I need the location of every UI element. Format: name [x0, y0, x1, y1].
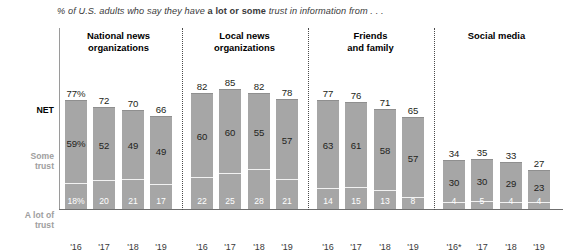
bar-body — [276, 99, 298, 209]
stacked-bar[interactable]: 492170 — [122, 111, 144, 209]
net-value: 77 — [317, 88, 339, 99]
row-label-some-line2: trust — [0, 162, 54, 172]
net-value: 77% — [65, 88, 87, 99]
segment-divider — [191, 177, 213, 178]
stacked-bar[interactable]: 522072 — [93, 108, 115, 209]
group-divider — [182, 28, 183, 210]
some-trust-value: 60 — [191, 131, 213, 142]
group-header-2: Local newsorganizations — [188, 30, 301, 54]
stacked-bar[interactable]: 602585 — [219, 90, 241, 209]
some-trust-value: 61 — [345, 140, 367, 151]
some-trust-value: 58 — [374, 145, 396, 156]
some-trust-value: 59% — [65, 138, 87, 149]
a-lot-of-trust-value: 13 — [374, 196, 396, 206]
segment-divider — [345, 187, 367, 188]
a-lot-of-trust-value: 18% — [65, 196, 87, 206]
some-trust-value: 30 — [443, 177, 465, 188]
net-value: 76 — [345, 90, 367, 101]
net-value: 85 — [219, 77, 241, 88]
subtitle-emphasis: a lot or some — [208, 6, 266, 16]
segment-divider — [248, 169, 270, 170]
a-lot-of-trust-value: 25 — [219, 196, 241, 206]
a-lot-of-trust-value: 20 — [93, 196, 115, 206]
stacked-bar[interactable]: 30535 — [471, 160, 493, 209]
stacked-bar[interactable]: 602282 — [191, 94, 213, 209]
group-header-line1: Social media — [440, 30, 553, 42]
bar-body — [122, 110, 144, 209]
net-value: 70 — [122, 98, 144, 109]
subtitle-post: trust in information from . . . — [266, 6, 384, 16]
net-value: 33 — [500, 150, 522, 161]
a-lot-of-trust-value: 28 — [248, 196, 270, 206]
a-lot-of-trust-value: 21 — [122, 196, 144, 206]
group-header-line2: organizations — [62, 42, 175, 54]
x-tick-label: '19 — [394, 242, 432, 252]
net-value: 78 — [276, 87, 298, 98]
row-label-alot-line2: trust — [0, 221, 54, 231]
row-label-some-trust: Some trust — [0, 152, 54, 171]
segment-divider — [122, 179, 144, 180]
bar-body — [191, 93, 213, 209]
stacked-bar[interactable]: 611576 — [345, 103, 367, 209]
some-trust-value: 30 — [471, 176, 493, 187]
bar-body — [374, 109, 396, 209]
stacked-bar[interactable]: 552882 — [248, 94, 270, 209]
net-value: 71 — [374, 97, 396, 108]
net-value: 82 — [191, 81, 213, 92]
some-trust-value: 57 — [402, 153, 424, 164]
some-trust-value: 29 — [500, 178, 522, 189]
group-divider — [308, 28, 309, 210]
some-trust-value: 23 — [528, 182, 550, 193]
some-trust-value: 49 — [122, 140, 144, 151]
stacked-bar[interactable]: 631477 — [317, 101, 339, 209]
bar-body — [150, 116, 172, 209]
some-trust-value: 52 — [93, 140, 115, 151]
stacked-bar[interactable]: 29433 — [500, 163, 522, 209]
net-value: 34 — [443, 148, 465, 159]
net-value: 35 — [471, 147, 493, 158]
some-trust-value: 57 — [276, 135, 298, 146]
segment-divider — [276, 179, 298, 180]
a-lot-of-trust-value: 17 — [150, 196, 172, 206]
some-trust-value: 55 — [248, 127, 270, 138]
net-value: 72 — [93, 95, 115, 106]
stacked-bar[interactable]: 572178 — [276, 100, 298, 209]
net-value: 27 — [528, 158, 550, 169]
stacked-bar[interactable]: 581371 — [374, 110, 396, 209]
group-header-line2: organizations — [188, 42, 301, 54]
bar-body — [219, 89, 241, 209]
some-trust-value: 49 — [150, 146, 172, 157]
x-tick-label: '19 — [268, 242, 306, 252]
some-trust-value: 63 — [317, 140, 339, 151]
a-lot-of-trust-value: 22 — [191, 196, 213, 206]
net-value: 66 — [150, 104, 172, 115]
group-header-1: National newsorganizations — [62, 30, 175, 54]
plot-area: NET Some trust A lot of trust National n… — [0, 28, 569, 210]
chart-subtitle: % of U.S. adults who say they have a lot… — [57, 6, 384, 16]
segment-divider — [219, 173, 241, 174]
group-header-line1: National news — [62, 30, 175, 42]
a-lot-of-trust-value: 4 — [528, 196, 550, 206]
some-trust-value: 60 — [219, 127, 241, 138]
stacked-bar[interactable]: 59%18%77% — [65, 101, 87, 209]
bar-body — [248, 93, 270, 209]
group-header-line2: and family — [314, 42, 427, 54]
bar-body — [93, 107, 115, 209]
segment-divider — [65, 183, 87, 184]
net-value: 82 — [248, 81, 270, 92]
row-label-net-text: NET — [36, 105, 54, 115]
group-header-line1: Friends — [314, 30, 427, 42]
group-header-3: Friendsand family — [314, 30, 427, 54]
a-lot-of-trust-value: 21 — [276, 196, 298, 206]
stacked-bar[interactable]: 57865 — [402, 118, 424, 209]
x-tick-label: '19 — [520, 242, 558, 252]
stacked-bar[interactable]: 30434 — [443, 161, 465, 209]
stacked-bar[interactable]: 23427 — [528, 171, 550, 209]
segment-divider — [93, 180, 115, 181]
group-header-line1: Local news — [188, 30, 301, 42]
net-value: 65 — [402, 105, 424, 116]
group-header-4: Social media — [440, 30, 553, 42]
stacked-bar[interactable]: 491766 — [150, 117, 172, 209]
row-label-a-lot-of-trust: A lot of trust — [0, 211, 54, 230]
